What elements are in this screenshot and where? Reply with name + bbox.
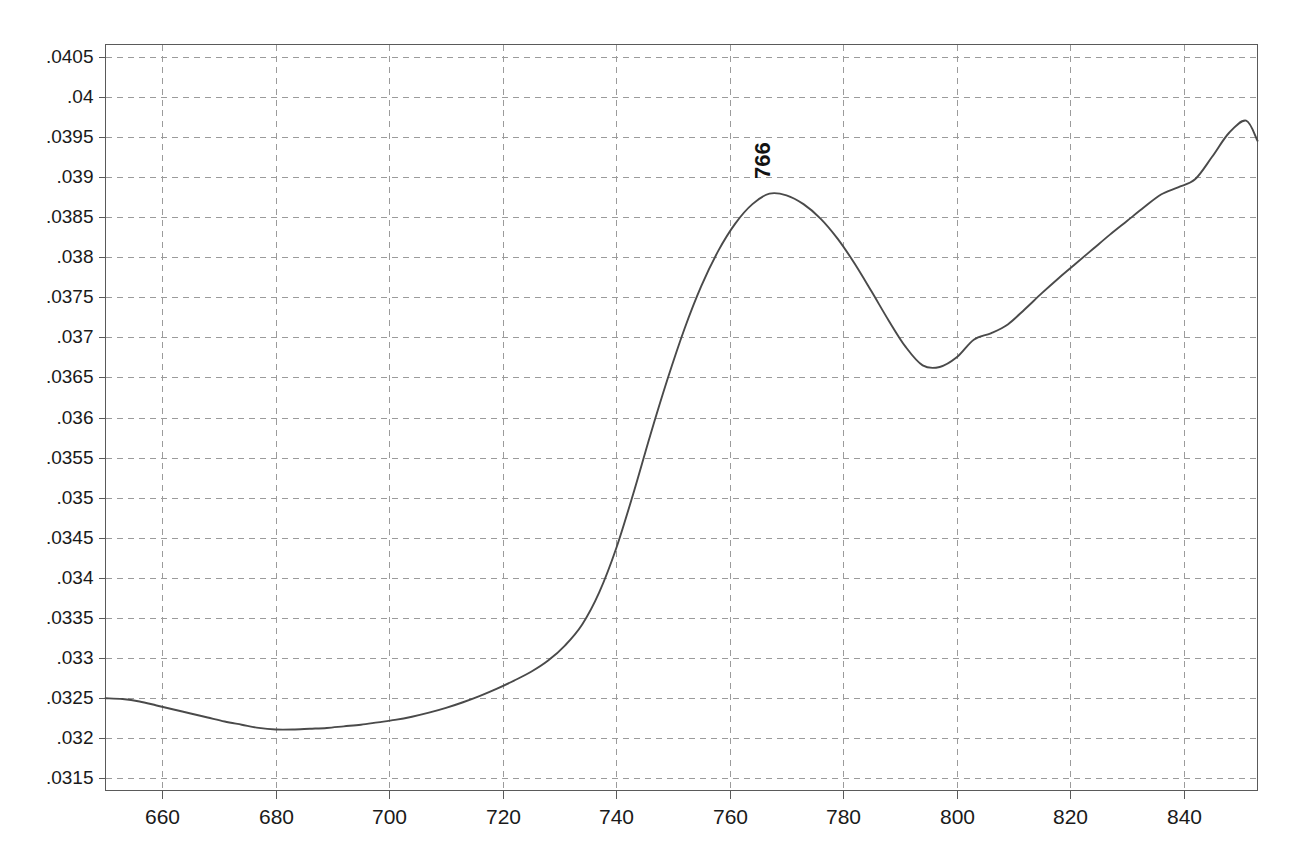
y-tick-label: .038 (57, 246, 94, 267)
y-tick-label: .035 (57, 487, 94, 508)
x-tick-label: 740 (599, 805, 634, 828)
y-tick-label: .0325 (46, 687, 94, 708)
peak-label: 766 (750, 142, 775, 179)
x-tick-label: 780 (826, 805, 861, 828)
y-tick-label: .0345 (46, 527, 94, 548)
y-tick-label: .033 (57, 647, 94, 668)
x-tick-label: 820 (1053, 805, 1088, 828)
y-tick-label: .0355 (46, 447, 94, 468)
x-tick-label: 840 (1167, 805, 1202, 828)
y-tick-label: .036 (57, 407, 94, 428)
chart-background (0, 0, 1308, 854)
chart-canvas: .0315.032.0325.033.0335.034.0345.035.035… (0, 0, 1308, 854)
x-tick-label: 680 (259, 805, 294, 828)
y-tick-label: .0365 (46, 366, 94, 387)
x-tick-label: 760 (713, 805, 748, 828)
y-tick-label: .04 (67, 86, 94, 107)
x-tick-label: 700 (372, 805, 407, 828)
y-tick-label: .034 (57, 567, 94, 588)
peak-annotations: 766 (750, 142, 775, 179)
y-tick-label: .039 (57, 166, 94, 187)
y-tick-label: .0395 (46, 126, 94, 147)
x-tick-label: 720 (486, 805, 521, 828)
y-tick-label: .0315 (46, 767, 94, 788)
y-tick-label: .0335 (46, 607, 94, 628)
y-tick-label: .037 (57, 326, 94, 347)
y-tick-label: .0405 (46, 46, 94, 67)
x-tick-label: 800 (940, 805, 975, 828)
x-tick-label: 660 (145, 805, 180, 828)
y-tick-label: .0375 (46, 286, 94, 307)
y-tick-label: .032 (57, 727, 94, 748)
spectrum-chart-figure: .0315.032.0325.033.0335.034.0345.035.035… (0, 0, 1308, 854)
y-tick-label: .0385 (46, 206, 94, 227)
